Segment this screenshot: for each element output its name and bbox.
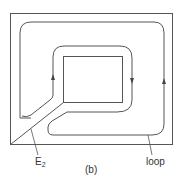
e2-leader-line <box>31 129 38 155</box>
arrow-up-outer-right-icon <box>162 78 166 84</box>
caption: (b) <box>85 165 97 175</box>
diagonal-cut-line <box>11 103 64 145</box>
e2-subscript: 2 <box>42 161 46 168</box>
loop-label: loop <box>146 157 165 167</box>
arrow-down-inner-right-icon <box>130 78 134 84</box>
arrow-up-inner-left-icon <box>51 74 55 80</box>
e2-main: E <box>35 156 42 167</box>
inner-rectangle <box>64 57 123 103</box>
e2-label: E2 <box>35 157 46 168</box>
outer-loop-path <box>20 22 164 135</box>
